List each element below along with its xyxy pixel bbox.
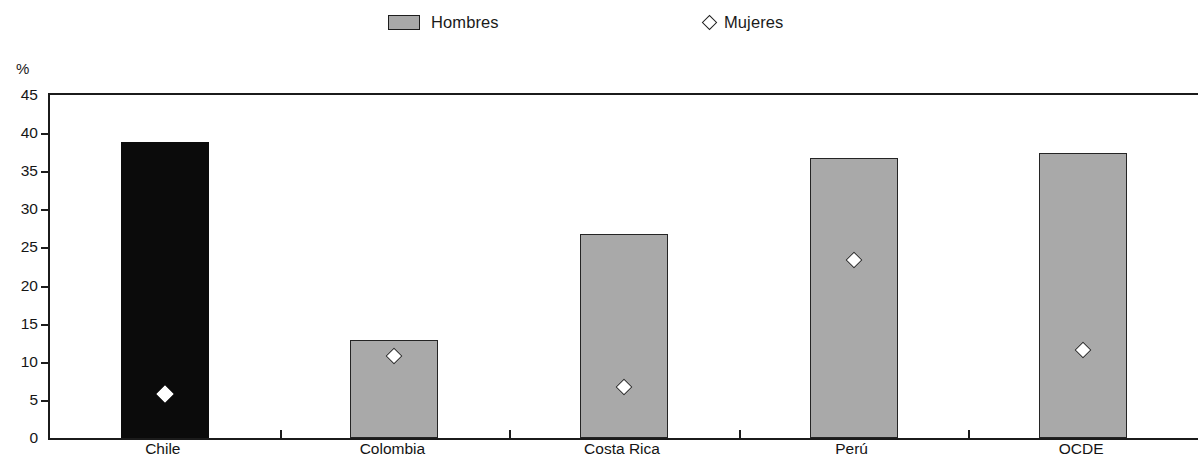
y-axis-tick-label: 45	[4, 87, 38, 103]
x-axis-separator-tick	[739, 430, 741, 439]
chart-container: Hombres Mujeres % 051015202530354045 Chi…	[0, 0, 1200, 464]
y-axis-tick-mark	[41, 400, 50, 402]
x-axis-category-label: Colombia	[360, 440, 425, 459]
x-axis-category-label: OCDE	[1059, 440, 1104, 459]
y-axis-tick-label: 40	[4, 125, 38, 141]
plot-area: 051015202530354045	[48, 93, 1198, 440]
x-axis-ticks	[50, 95, 1198, 438]
x-axis-separator-tick	[280, 430, 282, 439]
y-axis-tick-label: 20	[4, 278, 38, 294]
legend-item-hombres: Hombres	[388, 12, 499, 32]
x-axis-category-label: Perú	[835, 440, 868, 459]
legend-label-mujeres: Mujeres	[724, 14, 783, 31]
chart-legend: Hombres Mujeres	[0, 0, 1200, 46]
legend-label-hombres: Hombres	[431, 14, 499, 31]
y-axis-unit-label: %	[16, 60, 29, 77]
x-axis-separator-tick	[968, 430, 970, 439]
y-axis-tick-mark	[41, 324, 50, 326]
y-axis-tick-mark	[41, 286, 50, 288]
y-axis-tick-mark	[41, 209, 50, 211]
y-axis-tick-label: 15	[4, 316, 38, 332]
y-axis-tick-label: 35	[4, 163, 38, 179]
x-axis-category-label: Chile	[145, 440, 180, 459]
y-axis-tick-label: 25	[4, 240, 38, 256]
y-axis-tick-label: 10	[4, 354, 38, 370]
x-axis-labels: ChileColombiaCosta RicaPerúOCDE	[48, 440, 1196, 464]
y-axis-tick-label: 0	[4, 430, 38, 446]
y-axis-tick-mark	[41, 362, 50, 364]
legend-bar-swatch-icon	[388, 15, 420, 30]
legend-item-mujeres: Mujeres	[702, 12, 783, 32]
legend-diamond-marker-icon	[702, 14, 718, 30]
y-axis-tick-mark	[41, 133, 50, 135]
y-axis-tick-mark	[41, 247, 50, 249]
y-axis-tick-label: 5	[4, 392, 38, 408]
y-axis-tick-label: 30	[4, 202, 38, 218]
y-axis-tick-mark	[41, 171, 50, 173]
x-axis-category-label: Costa Rica	[584, 440, 660, 459]
x-axis-separator-tick	[509, 430, 511, 439]
